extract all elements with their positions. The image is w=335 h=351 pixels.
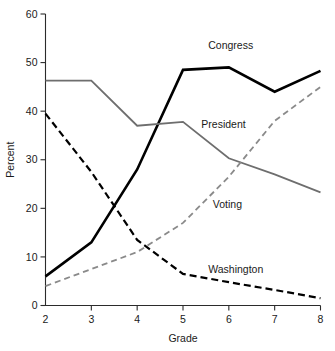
data-series: [46, 67, 321, 298]
series-labels: CongressPresidentVotingWashington: [201, 39, 263, 274]
series-label-president: President: [201, 118, 245, 130]
x-tick-label: 5: [180, 313, 186, 325]
x-axis-tick-labels: 2345678: [43, 313, 324, 325]
series-line-voting: [46, 87, 321, 286]
y-axis-tick-labels: 0102030405060: [26, 8, 38, 312]
y-tick-label: 50: [26, 56, 38, 68]
series-line-congress: [46, 67, 321, 276]
series-label-washington: Washington: [208, 263, 263, 275]
x-tick-label: 3: [88, 313, 94, 325]
series-label-voting: Voting: [213, 198, 242, 210]
y-tick-label: 40: [26, 105, 38, 117]
x-tick-label: 2: [43, 313, 49, 325]
x-tick-label: 7: [272, 313, 278, 325]
axes: [46, 14, 321, 306]
x-tick-label: 8: [318, 313, 324, 325]
y-tick-label: 60: [26, 8, 38, 20]
y-tick-label: 0: [32, 299, 38, 311]
y-tick-label: 10: [26, 251, 38, 263]
series-label-congress: Congress: [208, 39, 253, 51]
x-tick-label: 4: [134, 313, 140, 325]
y-tick-label: 30: [26, 153, 38, 165]
x-axis-title: Grade: [168, 332, 197, 344]
y-tick-label: 20: [26, 202, 38, 214]
series-line-president: [46, 81, 321, 193]
x-tick-label: 6: [226, 313, 232, 325]
axis-spines: [46, 14, 321, 306]
y-axis-title: Percent: [4, 142, 16, 178]
line-chart: 0102030405060 2345678 CongressPresidentV…: [0, 0, 335, 351]
chart-container: 0102030405060 2345678 CongressPresidentV…: [0, 0, 335, 351]
